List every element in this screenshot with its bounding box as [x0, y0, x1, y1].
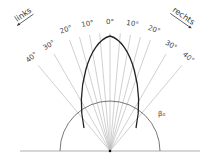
ray-40	[110, 65, 182, 151]
ray-5	[110, 33, 120, 151]
angle-label: 10°	[126, 19, 140, 29]
polar-diagram: 40°30°20°10°0°10°20°30°40° links rechts …	[0, 0, 209, 165]
diagram-canvas: 40°30°20°10°0°10°20°30°40° links rechts …	[0, 0, 209, 165]
origin-point	[109, 150, 112, 153]
angle-label: 30°	[164, 39, 179, 52]
angle-label: 0°	[106, 18, 114, 26]
angle-rays	[38, 33, 182, 151]
ray--15	[80, 37, 111, 151]
angle-label: 20°	[147, 24, 161, 36]
ray--5	[100, 33, 110, 151]
angle-label: 40°	[181, 51, 196, 65]
right-direction-label: rechts	[169, 5, 197, 29]
ray--40	[38, 65, 110, 151]
circle-label: β₀	[158, 110, 165, 118]
angle-label: 20°	[59, 24, 73, 36]
ray-15	[110, 37, 141, 151]
angle-label: 40°	[24, 51, 39, 65]
angle-label: 30°	[42, 39, 57, 52]
left-direction-label: links	[11, 6, 34, 27]
angle-label: 10°	[81, 19, 95, 29]
right-label: rechts	[171, 5, 196, 27]
left-label: links	[13, 6, 33, 24]
